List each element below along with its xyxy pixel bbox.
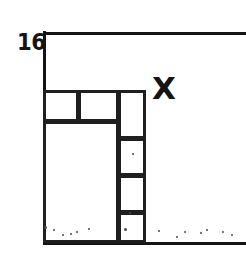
scan-speck bbox=[222, 231, 224, 233]
diagram-canvas: 16 X bbox=[0, 0, 246, 255]
scan-speck bbox=[70, 233, 72, 235]
rect-top-middle bbox=[78, 90, 119, 122]
rect-right-column-3 bbox=[118, 175, 146, 213]
top-horizontal-rule bbox=[43, 32, 246, 35]
rect-right-column-1 bbox=[118, 90, 146, 139]
scan-speck bbox=[184, 231, 186, 233]
scan-speck bbox=[206, 229, 208, 231]
scan-speck bbox=[62, 234, 64, 236]
axis-value-label: 16 bbox=[17, 31, 46, 54]
scan-speck bbox=[53, 229, 55, 231]
scan-speck bbox=[158, 230, 160, 232]
rect-right-column-2 bbox=[118, 138, 146, 176]
scan-speck bbox=[76, 231, 78, 233]
scan-speck bbox=[231, 234, 233, 236]
scan-speck bbox=[129, 212, 131, 214]
scan-speck bbox=[88, 228, 90, 230]
scan-speck bbox=[200, 232, 202, 234]
rect-large-lower-left bbox=[43, 121, 119, 243]
region-x-label: X bbox=[152, 73, 176, 104]
scan-speck bbox=[176, 236, 178, 238]
rect-right-column-4 bbox=[118, 212, 146, 243]
scan-speck bbox=[124, 228, 127, 231]
scan-speck bbox=[44, 226, 47, 229]
rect-top-left bbox=[43, 90, 79, 122]
scan-speck bbox=[132, 153, 134, 155]
